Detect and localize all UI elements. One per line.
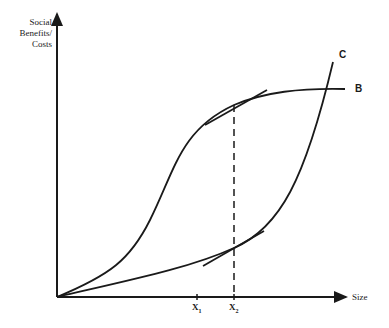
x2-label: X2 xyxy=(229,302,239,314)
curve-b-label: B xyxy=(355,83,362,94)
curve-c xyxy=(57,62,333,297)
tangent-b xyxy=(205,90,267,125)
x1-label-sub: 1 xyxy=(199,308,202,314)
curve-c-label: C xyxy=(339,49,346,60)
curve-b xyxy=(57,89,345,297)
x2-label-sub: 2 xyxy=(236,308,239,314)
x-axis-label: Size xyxy=(352,292,368,302)
y-axis-label-line: Benefits/ xyxy=(2,28,52,39)
diagram-canvas xyxy=(0,0,389,328)
y-axis-label-line: Costs xyxy=(2,39,52,50)
y-axis-label-line: Social xyxy=(2,17,52,28)
y-axis-label: Social Benefits/ Costs xyxy=(2,17,52,50)
tangent-c xyxy=(203,231,264,266)
x1-label: X1 xyxy=(192,302,202,314)
